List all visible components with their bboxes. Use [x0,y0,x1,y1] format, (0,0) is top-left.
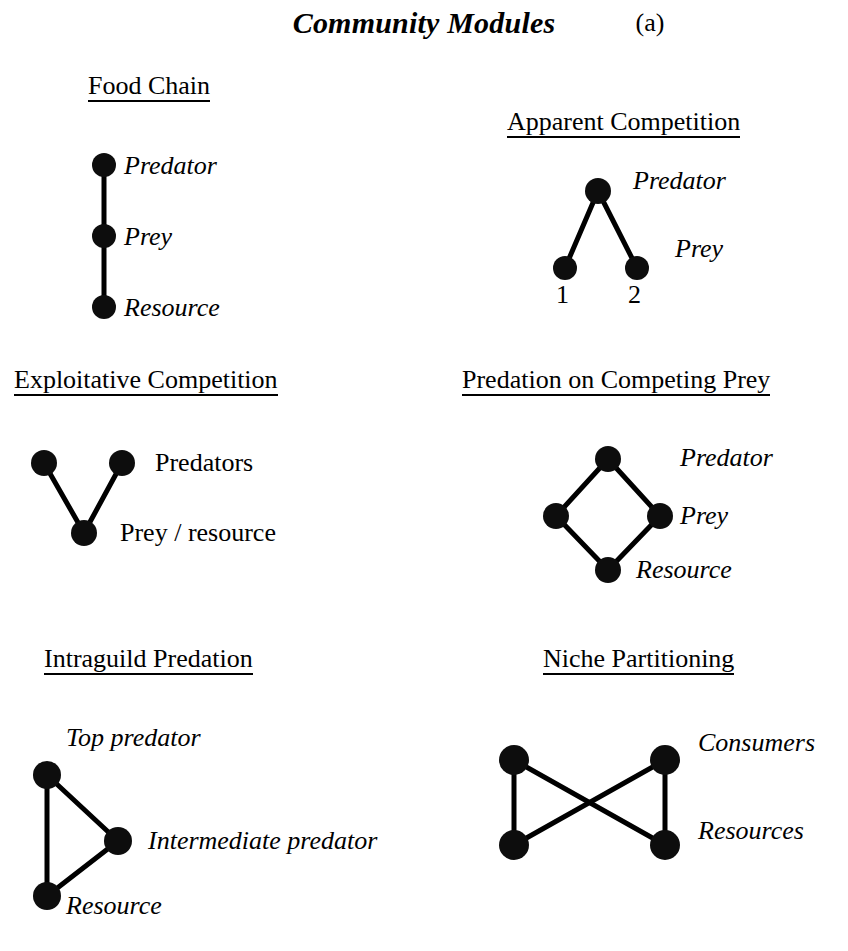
community-modules-figure: Community Modules (a) Food Chain Predato… [0,0,848,951]
label-niche-consumers: Consumers [698,730,815,756]
label-niche-resources: Resources [698,818,804,844]
node-resource-1 [499,830,529,860]
node-consumer-2 [650,745,680,775]
niche-partitioning-graph [0,0,848,951]
node-consumer-1 [499,745,529,775]
node-resource-2 [650,830,680,860]
